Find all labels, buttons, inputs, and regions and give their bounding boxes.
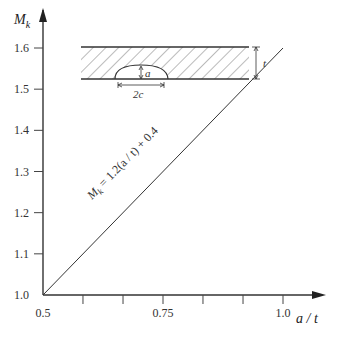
y-tick-label: 1.2	[14, 206, 29, 220]
equation-annotation: Mk = 1.2(a / t) + 0.4	[83, 124, 162, 204]
x-tick-label: 0.75	[153, 306, 174, 320]
x-axis-title: a / t	[296, 311, 319, 326]
y-axis-arrow	[39, 8, 47, 22]
y-tick-label: 1.0	[14, 288, 29, 302]
y-tick-label: 1.1	[14, 247, 29, 261]
crack-inset: a 2c t	[81, 47, 267, 100]
y-tick-label: 1.5	[14, 82, 29, 96]
chart: 0.50.751.01.01.11.21.31.41.51.6 Mk a / t…	[0, 0, 341, 339]
y-tick-label: 1.3	[14, 165, 29, 179]
width-label: 2c	[133, 88, 144, 100]
x-tick-label: 1.0	[276, 306, 291, 320]
y-axis-title: Mk	[13, 12, 31, 30]
x-axis-arrow	[312, 291, 326, 299]
depth-label: a	[145, 67, 151, 79]
y-tick-label: 1.6	[14, 41, 29, 55]
thickness-label: t	[263, 57, 267, 69]
y-tick-label: 1.4	[14, 123, 29, 137]
x-tick-label: 0.5	[36, 306, 51, 320]
